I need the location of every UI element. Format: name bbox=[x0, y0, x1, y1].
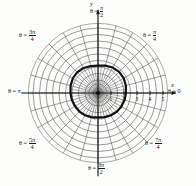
angle-label-theta-0: θ = 0 bbox=[168, 88, 181, 94]
fraction-denominator: 2 bbox=[100, 12, 104, 19]
angle-label-theta-7pi-4: θ = 7π4 bbox=[145, 137, 162, 151]
angle-label-text: θ = bbox=[143, 31, 151, 38]
angle-label-theta-3pi-2: θ = 3π2 bbox=[88, 162, 105, 176]
angle-label-text: θ = bbox=[19, 31, 27, 38]
polar-grid-figure: y x θ = 0θ = π4θ = π2θ = 3π4θ = πθ = 5π4… bbox=[0, 0, 196, 186]
fraction-denominator: 4 bbox=[29, 36, 36, 43]
angle-label-theta-pi-2: θ = π2 bbox=[90, 5, 103, 19]
angle-label-fraction: π2 bbox=[100, 5, 104, 19]
angle-label-text: θ = π bbox=[8, 87, 21, 94]
angle-label-fraction: 7π4 bbox=[155, 137, 162, 151]
fraction-denominator: 4 bbox=[29, 144, 36, 151]
fraction-denominator: 2 bbox=[98, 169, 105, 176]
angle-label-theta-3pi-4: θ = 3π4 bbox=[19, 29, 36, 43]
angle-label-theta-pi: θ = π bbox=[8, 88, 21, 94]
fraction-denominator: 4 bbox=[155, 144, 162, 151]
angle-label-theta-pi-4: θ = π4 bbox=[143, 29, 156, 43]
angle-label-text: θ = bbox=[88, 164, 96, 171]
angle-label-text: θ = bbox=[19, 139, 27, 146]
angle-label-fraction: 3π4 bbox=[29, 29, 36, 43]
angle-label-theta-5pi-4: θ = 5π4 bbox=[19, 137, 36, 151]
angle-label-text: θ = bbox=[145, 139, 153, 146]
angle-label-fraction: 5π4 bbox=[29, 137, 36, 151]
angle-label-fraction: π4 bbox=[153, 29, 157, 43]
radial-tick-label-2: 2 bbox=[123, 96, 126, 102]
radial-tick-label-1: 1 bbox=[110, 96, 113, 102]
radial-tick-label-3: 3 bbox=[136, 96, 139, 102]
angle-label-text: θ = 0 bbox=[168, 87, 181, 94]
radial-tick-label-4: 4 bbox=[149, 96, 152, 102]
angle-label-fraction: 3π2 bbox=[98, 162, 105, 176]
radial-tick-label-5: 5 bbox=[162, 96, 165, 102]
fraction-denominator: 4 bbox=[153, 36, 157, 43]
angle-label-text: θ = bbox=[90, 7, 98, 14]
